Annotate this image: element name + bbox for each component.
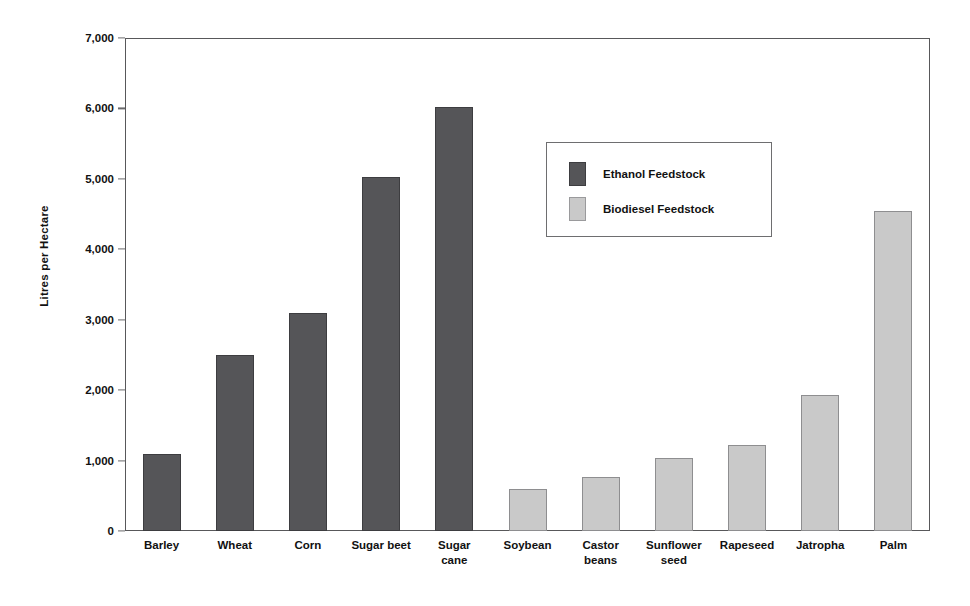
x-axis-tick-label: Sunflowerseed xyxy=(637,538,710,568)
legend-swatch-ethanol-icon xyxy=(569,162,586,186)
bar-wheat xyxy=(216,355,254,531)
y-axis-tick-mark xyxy=(118,319,125,320)
y-axis-tick-mark xyxy=(118,178,125,179)
y-axis-tick-mark xyxy=(118,390,125,391)
x-axis-tick-label: Castorbeans xyxy=(564,538,637,568)
y-axis-tick-label: 6,000 xyxy=(40,102,114,114)
bar-rapeseed xyxy=(728,445,766,531)
x-axis-tick-label: Corn xyxy=(271,538,344,553)
bar-sunflower-seed xyxy=(655,458,693,531)
bar-chart: Litres per Hectare 7,0006,0005,0004,0003… xyxy=(0,0,970,606)
x-axis-tick-label: Jatropha xyxy=(784,538,857,553)
y-axis-tick-mark xyxy=(118,530,125,531)
x-axis-tick-label: Rapeseed xyxy=(710,538,783,553)
x-axis-tick-label: Soybean xyxy=(491,538,564,553)
y-axis-tick-label: 5,000 xyxy=(40,173,114,185)
x-axis-tick-group: BarleyWheatCornSugar beetSugarcaneSoybea… xyxy=(125,538,930,598)
x-axis-tick-label: Sugarcane xyxy=(418,538,491,568)
y-axis-tick-label: 7,000 xyxy=(40,32,114,44)
bars-layer xyxy=(125,38,930,531)
y-axis-tick-mark xyxy=(118,249,125,250)
legend-label-biodiesel: Biodiesel Feedstock xyxy=(603,203,714,215)
bar-corn xyxy=(289,313,327,531)
bar-palm xyxy=(874,211,912,531)
y-axis-tick-mark xyxy=(118,108,125,109)
legend-item-ethanol: Ethanol Feedstock xyxy=(569,162,705,186)
bar-castor-beans xyxy=(582,477,620,531)
legend-label-ethanol: Ethanol Feedstock xyxy=(603,168,705,180)
legend-item-biodiesel: Biodiesel Feedstock xyxy=(569,197,714,221)
bar-sugar-beet xyxy=(362,177,400,531)
y-axis-title: Litres per Hectare xyxy=(38,156,50,356)
y-axis-tick-label: 4,000 xyxy=(40,243,114,255)
y-axis-tick-mark xyxy=(118,460,125,461)
bar-barley xyxy=(143,454,181,531)
legend-swatch-biodiesel-icon xyxy=(569,197,586,221)
x-axis-tick-label: Barley xyxy=(125,538,198,553)
legend: Ethanol Feedstock Biodiesel Feedstock xyxy=(546,142,772,237)
y-axis-tick-label: 0 xyxy=(40,525,114,537)
bar-jatropha xyxy=(801,395,839,531)
y-axis-tick-label: 3,000 xyxy=(40,314,114,326)
y-axis-tick-mark xyxy=(118,37,125,38)
bar-soybean xyxy=(509,489,547,531)
x-axis-tick-label: Palm xyxy=(857,538,930,553)
y-axis-tick-label: 2,000 xyxy=(40,384,114,396)
x-axis-tick-label: Sugar beet xyxy=(345,538,418,553)
y-axis-tick-label: 1,000 xyxy=(40,455,114,467)
x-axis-tick-label: Wheat xyxy=(198,538,271,553)
bar-sugar-cane xyxy=(435,107,473,531)
